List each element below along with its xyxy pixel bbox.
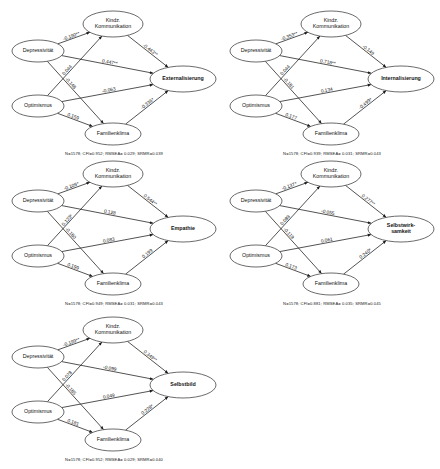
panel-2-optimismus-to-familienklima-arrowhead bbox=[307, 124, 311, 127]
panel-1-node-familienklima-label: Familienklima bbox=[97, 130, 129, 136]
panel-5-optimismus-to-familienklima: 0.181 bbox=[57, 418, 92, 433]
panel-2-familienklima-to-outcome-coefficient: -0.499* bbox=[358, 97, 373, 111]
panel-1-depressivitaet-to-kindz-arrowhead bbox=[86, 32, 90, 35]
panel-2-node-familienklima-label: Familienklima bbox=[315, 130, 347, 136]
panel-5-depressivitaet-to-kindz: -0.199** bbox=[58, 337, 90, 350]
panel-5-node-depressivitaet-label: Depressivität bbox=[23, 353, 54, 359]
panel-1-depressivitaet-to-kindz: -0.190** bbox=[58, 31, 90, 44]
panel-5-optimismus-to-familienklima-arrowhead bbox=[89, 430, 93, 433]
panel-5-node-outcome-label: Selbstbild bbox=[170, 381, 195, 387]
panel-3-optimismus-to-kindz-coefficient: 0.123* bbox=[61, 213, 74, 227]
panel-5-familienklima-to-outcome-coefficient: 0.228* bbox=[140, 403, 154, 416]
panel-2-depressivitaet-to-kindz-arrowhead bbox=[304, 32, 308, 35]
sem-figure: -0.190**-0.1480.0440.1590.447**-0.063-0.… bbox=[0, 0, 440, 469]
panel-4-fit-statistics: N=1578; CFI=0.881; RMSEA= 0.035; SRMR=0.… bbox=[283, 301, 381, 306]
panel-3-kindz-to-outcome-coefficient: 0.544** bbox=[143, 193, 159, 207]
panel-4-depressivitaet-to-kindz-arrowhead bbox=[304, 182, 308, 185]
panel-4-canvas: -0.137*-0.1190.0890.173-0.0550.0610.277*… bbox=[226, 156, 438, 308]
panel-4: -0.137*-0.1190.0890.173-0.0550.0610.277*… bbox=[226, 156, 438, 308]
panel-2-optimismus-to-outcome-coefficient: 0.134 bbox=[320, 87, 333, 94]
panel-4-node-optimismus: Optimismus bbox=[230, 245, 282, 267]
panel-2-depressivitaet-to-kindz: -0.353** bbox=[276, 31, 308, 44]
panel-2-node-kindz-kommunikation-label: Kommunikation bbox=[313, 23, 350, 29]
panel-2-node-depressivitaet: Depressivität bbox=[230, 40, 282, 62]
panel-2-node-outcome-label: Internalisierung bbox=[381, 75, 421, 81]
panel-1-canvas: -0.190**-0.1480.0440.1590.447**-0.063-0.… bbox=[8, 6, 220, 158]
panel-3-depressivitaet-to-kindz-coefficient: -0.109* bbox=[63, 181, 79, 191]
panel-3-optimismus-to-familienklima-arrowhead bbox=[89, 274, 93, 277]
panel-4-familienklima-to-outcome: 0.240* bbox=[344, 241, 387, 275]
panel-1-node-depressivitaet-label: Depressivität bbox=[23, 47, 54, 53]
panel-2-kindz-to-outcome-coefficient: -0.149 bbox=[361, 44, 375, 57]
panel-3-depressivitaet-to-kindz-arrowhead bbox=[86, 182, 90, 185]
panel-4-node-familienklima: Familienklima bbox=[303, 273, 359, 295]
panel-1-node-optimismus: Optimismus bbox=[12, 95, 64, 117]
panel-5-node-optimismus-label: Optimismus bbox=[24, 408, 52, 414]
panel-5-fit-statistics: N=1578; CFI=0.952; RMSEA= 0.029; SRMR=0.… bbox=[65, 457, 163, 462]
panel-2-node-familienklima: Familienklima bbox=[303, 123, 359, 145]
panel-3-optimismus-to-familienklima: 0.199 bbox=[57, 262, 92, 277]
panel-1-optimismus-to-familienklima: 0.159 bbox=[57, 112, 92, 127]
panel-2-node-kindz-kommunikation: Kindz.Kommunikation bbox=[301, 11, 361, 37]
panel-3-node-depressivitaet-label: Depressivität bbox=[23, 197, 54, 203]
panel-5-depressivitaet-to-familienklima-coefficient: -0.185 bbox=[64, 382, 77, 396]
panel-4-kindz-to-outcome-coefficient: 0.277** bbox=[361, 193, 377, 207]
panel-3-node-outcome: Empathie bbox=[150, 216, 216, 242]
panel-2-familienklima-to-outcome: -0.499* bbox=[344, 91, 387, 125]
panel-3-node-familienklima-label: Familienklima bbox=[97, 280, 129, 286]
panel-2-optimismus-to-familienklima: 0.177 bbox=[275, 112, 310, 127]
panel-3: -0.109*-0.1800.123*0.1990.1280.0830.544*… bbox=[8, 156, 220, 308]
panel-3-node-kindz-kommunikation: Kindz.Kommunikation bbox=[83, 161, 143, 187]
panel-4-familienklima-to-outcome-coefficient: 0.240* bbox=[358, 247, 372, 260]
panel-5-kindz-to-outcome: 0.349** bbox=[127, 341, 168, 373]
panel-2-depressivitaet-to-familienklima-coefficient: -0.181 bbox=[282, 76, 295, 90]
panel-1-kindz-to-outcome: -0.443** bbox=[127, 35, 168, 67]
panel-3-depressivitaet-to-outcome-coefficient: 0.128 bbox=[103, 209, 116, 216]
panel-2-node-optimismus-label: Optimismus bbox=[242, 102, 270, 108]
panel-4-node-depressivitaet-label: Depressivität bbox=[241, 197, 272, 203]
panel-5-node-depressivitaet: Depressivität bbox=[12, 346, 64, 368]
panel-1-node-kindz-kommunikation-label: Kommunikation bbox=[95, 23, 132, 29]
panel-4-optimismus-to-familienklima: 0.173 bbox=[275, 262, 310, 277]
panel-4-node-familienklima-label: Familienklima bbox=[315, 280, 347, 286]
panel-5-node-familienklima-label: Familienklima bbox=[97, 436, 129, 442]
panel-3-depressivitaet-to-familienklima-coefficient: -0.180 bbox=[64, 226, 77, 240]
panel-4-node-kindz-kommunikation: Kindz.Kommunikation bbox=[301, 161, 361, 187]
panel-5: -0.199**-0.1850.0780.181-0.0990.0490.349… bbox=[8, 312, 220, 464]
panel-2-node-outcome: Internalisierung bbox=[368, 66, 434, 92]
panel-3-kindz-to-outcome: 0.544** bbox=[127, 185, 168, 217]
panel-1-familienklima-to-outcome-coefficient: -0.336* bbox=[140, 97, 155, 111]
panel-4-node-kindz-kommunikation-label: Kommunikation bbox=[313, 173, 350, 179]
panel-4-depressivitaet-to-familienklima-coefficient: -0.119 bbox=[282, 227, 295, 240]
panel-5-node-optimismus: Optimismus bbox=[12, 401, 64, 423]
panel-1-kindz-to-outcome-coefficient: -0.443** bbox=[142, 43, 159, 58]
panel-5-node-kindz-kommunikation-label: Kommunikation bbox=[95, 329, 132, 335]
panel-3-node-optimismus-label: Optimismus bbox=[24, 252, 52, 258]
panel-3-familienklima-to-outcome: 0.199 bbox=[126, 241, 169, 275]
panel-2-node-depressivitaet-label: Depressivität bbox=[241, 47, 272, 53]
panel-4-depressivitaet-to-kindz: -0.137* bbox=[276, 181, 308, 194]
panel-5-kindz-to-outcome-coefficient: 0.349** bbox=[143, 349, 159, 363]
panel-3-node-optimismus: Optimismus bbox=[12, 245, 64, 267]
panel-4-optimismus-to-outcome-coefficient: 0.061 bbox=[320, 237, 333, 244]
panel-3-node-kindz-kommunikation-label: Kommunikation bbox=[95, 173, 132, 179]
panel-3-optimismus-to-outcome-coefficient: 0.083 bbox=[102, 237, 115, 244]
panel-5-depressivitaet-to-kindz-coefficient: -0.199** bbox=[62, 337, 80, 348]
panel-1-node-outcome: Externalisierung bbox=[150, 66, 216, 92]
panel-2-kindz-to-outcome: -0.149 bbox=[345, 35, 386, 67]
panel-4-node-outcome-label: samkeit bbox=[391, 228, 411, 234]
panel-2-canvas: -0.353**-0.1810.0440.1770.718**0.134-0.1… bbox=[226, 6, 438, 158]
panel-3-node-depressivitaet: Depressivität bbox=[12, 190, 64, 212]
panel-1-node-outcome-label: Externalisierung bbox=[162, 75, 204, 81]
panel-5-depressivitaet-to-kindz-arrowhead bbox=[86, 338, 90, 341]
panel-5-node-outcome: Selbstbild bbox=[150, 372, 216, 398]
panel-2: -0.353**-0.1810.0440.1770.718**0.134-0.1… bbox=[226, 6, 438, 158]
panel-4-node-outcome: Selbstwirk-samkeit bbox=[368, 216, 434, 242]
panel-3-canvas: -0.109*-0.1800.123*0.1990.1280.0830.544*… bbox=[8, 156, 220, 308]
panel-1-familienklima-to-outcome: -0.336* bbox=[126, 91, 169, 125]
panel-5-node-kindz-kommunikation: Kindz.Kommunikation bbox=[83, 317, 143, 343]
panel-4-node-optimismus-label: Optimismus bbox=[242, 252, 270, 258]
panel-1-node-familienklima: Familienklima bbox=[85, 123, 141, 145]
panel-4-kindz-to-outcome: 0.277** bbox=[345, 185, 386, 217]
panel-1-node-depressivitaet: Depressivität bbox=[12, 40, 64, 62]
